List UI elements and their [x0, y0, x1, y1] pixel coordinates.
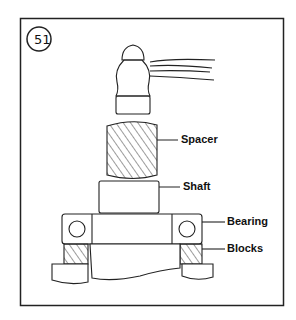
spacer-part [107, 122, 178, 179]
figure-number: 51 [34, 32, 51, 47]
label-bearing: Bearing [227, 215, 268, 227]
bearing-install-diagram [0, 0, 296, 320]
shaft-lower [90, 244, 180, 280]
label-blocks: Blocks [227, 242, 263, 254]
shaft-part [99, 181, 180, 213]
label-shaft: Shaft [183, 180, 211, 192]
hammer-icon [116, 45, 215, 114]
bearing-part [62, 214, 225, 244]
label-spacer: Spacer [181, 133, 218, 145]
